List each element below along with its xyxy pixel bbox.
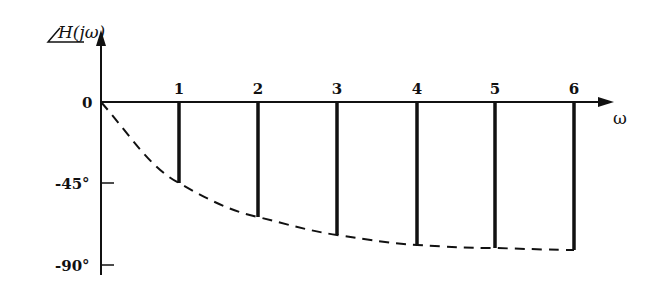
y-axis-title: H(jω) [57,22,105,42]
y-tick-45: -45° [55,175,90,193]
x-tick-3: 3 [332,80,342,98]
x-tick-6: 6 [569,80,579,98]
x-axis-arrow-icon [598,97,614,107]
x-tick-5: 5 [490,80,500,98]
x-axis-title: ω [613,108,627,128]
y-tick-90: -90° [55,257,90,275]
x-tick-1: 1 [174,80,184,98]
stems [179,102,574,250]
phase-response-chart: H(jω) ω 0 -45° -90° 1 2 3 4 5 6 [0,0,648,294]
x-tick-2: 2 [253,80,263,98]
y-tick-0: 0 [82,94,92,112]
x-tick-4: 4 [412,80,422,98]
